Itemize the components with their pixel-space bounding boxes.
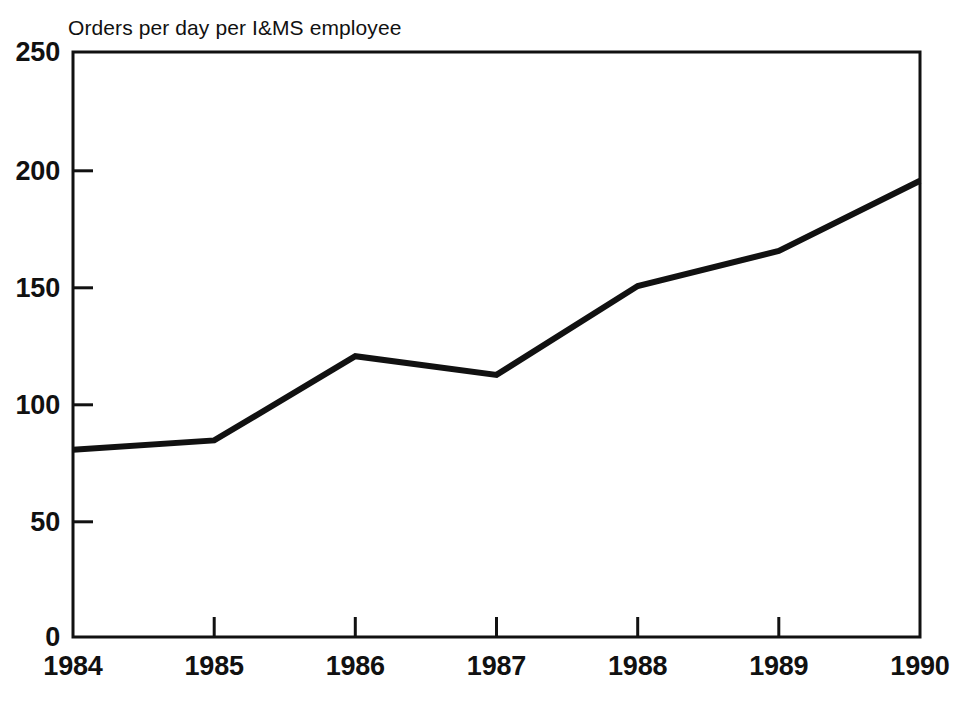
chart-figure: Orders per day per I&MS employee 250 200… [0,0,964,710]
x-tick-label-1986: 1986 [326,651,385,682]
x-tick-label-1984: 1984 [43,651,102,682]
x-tick-label-1988: 1988 [608,651,667,682]
data-line-orders-per-day [73,181,920,450]
y-tick-label-0: 0 [0,622,60,653]
x-tick-label-1990: 1990 [890,651,949,682]
y-tick-label-100: 100 [0,389,60,420]
y-tick-label-150: 150 [0,272,60,303]
line-chart-plot [0,0,964,710]
plot-frame [73,52,920,637]
y-tick-label-200: 200 [0,155,60,186]
y-tick-label-50: 50 [0,506,60,537]
x-tick-label-1989: 1989 [749,651,808,682]
y-axis-ticks [73,171,93,522]
x-tick-label-1987: 1987 [467,651,526,682]
x-axis-ticks [214,617,779,637]
y-tick-label-250: 250 [0,37,60,68]
x-tick-label-1985: 1985 [185,651,244,682]
